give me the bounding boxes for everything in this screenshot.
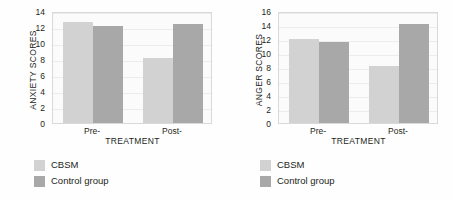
figure-grouped-bar-charts: ANXIETY SCORES 02468101214 Pre-Post- TRE…	[0, 0, 453, 199]
y-tick-label: 8	[266, 64, 271, 73]
bar-control	[93, 26, 123, 123]
x-tick-label: Pre-	[84, 126, 100, 136]
bar-control	[319, 42, 349, 123]
y-tick-label: 4	[266, 92, 271, 101]
bar-cbsm	[369, 66, 399, 123]
bar-control	[173, 24, 203, 123]
plot-area-anger	[278, 12, 438, 124]
y-axis-ticks-anxiety: 02468101214	[0, 12, 50, 124]
chart-panel-anger: ANGER SCORES 0246810121416 Pre-Post- TRE…	[226, 0, 452, 199]
y-tick-label: 6	[40, 72, 45, 81]
bar-cbsm	[143, 58, 173, 123]
y-tick-label: 14	[36, 8, 45, 17]
legend-item-cbsm: CBSM	[260, 157, 335, 173]
legend-item-control: Control group	[260, 173, 335, 189]
y-axis-ticks-anger: 0246810121416	[226, 12, 276, 124]
legend-swatch-cbsm-icon	[260, 160, 271, 171]
x-tick-label: Post-	[162, 126, 182, 136]
plot-area-anxiety	[52, 12, 212, 124]
x-axis-title-anxiety: TREATMENT	[50, 136, 215, 146]
y-tick-label: 4	[40, 88, 45, 97]
legend-label-cbsm: CBSM	[277, 160, 304, 170]
y-tick-label: 0	[40, 120, 45, 129]
chart-panel-anxiety: ANXIETY SCORES 02468101214 Pre-Post- TRE…	[0, 0, 226, 199]
legend-swatch-control-icon	[260, 176, 271, 187]
legend-label-control: Control group	[277, 176, 335, 186]
bar-control	[399, 24, 429, 123]
y-tick-label: 10	[262, 50, 271, 59]
legend-label-cbsm: CBSM	[51, 160, 78, 170]
y-tick-label: 0	[266, 120, 271, 129]
y-tick-label: 2	[266, 106, 271, 115]
y-tick-label: 14	[262, 22, 271, 31]
legend-item-control: Control group	[34, 173, 109, 189]
legend-anxiety: CBSM Control group	[34, 157, 109, 189]
bar-group-anxiety	[53, 13, 211, 123]
legend-swatch-control-icon	[34, 176, 45, 187]
x-tick-label: Post-	[388, 126, 408, 136]
y-tick-label: 12	[36, 24, 45, 33]
y-tick-label: 16	[262, 8, 271, 17]
legend-swatch-cbsm-icon	[34, 160, 45, 171]
x-axis-title-anger: TREATMENT	[276, 136, 441, 146]
y-tick-label: 8	[40, 56, 45, 65]
x-tick-label: Pre-	[310, 126, 326, 136]
legend-anger: CBSM Control group	[260, 157, 335, 189]
bar-cbsm	[289, 39, 319, 123]
bar-group-anger	[279, 13, 437, 123]
legend-item-cbsm: CBSM	[34, 157, 109, 173]
bar-cbsm	[63, 22, 93, 123]
y-tick-label: 6	[266, 78, 271, 87]
y-tick-label: 10	[36, 40, 45, 49]
legend-label-control: Control group	[51, 176, 109, 186]
y-tick-label: 12	[262, 36, 271, 45]
y-tick-label: 2	[40, 104, 45, 113]
